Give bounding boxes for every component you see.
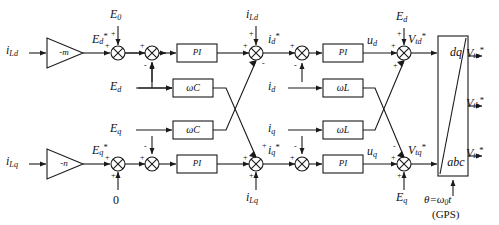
wire-wc-d-cross-down	[213, 88, 256, 157]
sign-sum-iLd-cross: -	[262, 60, 265, 68]
block-label-wl-q: ωL	[323, 125, 363, 135]
transform-label-abc: abc	[444, 156, 468, 168]
gain-block-label-m: -m	[52, 48, 76, 57]
theta-angle-label: θ=ω0t	[424, 194, 451, 206]
sign-sum-vtq-ff: +	[397, 172, 402, 180]
sign-sum-vtd-ff: +	[397, 30, 402, 38]
signal-label-Vtd-ref: Vtd*	[408, 32, 426, 47]
input-label-id-feedback: id	[268, 80, 275, 94]
input-label-Eq: Eq	[110, 122, 121, 136]
wire-wc-q-cross-up	[213, 61, 256, 130]
gps-source-label: (GPS)	[432, 209, 460, 220]
block-label-pi-d-outer: PI	[177, 48, 217, 57]
block-diagram-figure: iLd iLq E0 0 Ed Eq iLd iLq id iq Ed Eq -…	[0, 0, 499, 225]
output-label-Vta: Vta*	[466, 46, 484, 61]
block-label-wc-q: ωC	[173, 125, 213, 135]
input-label-iLq: iLq	[6, 155, 18, 169]
sign-sum-vtq-cross: -	[393, 143, 396, 151]
diagram-geometry	[29, 26, 482, 196]
input-label-iLq-injection: iLq	[246, 191, 258, 205]
signal-label-Vtq-ref: Vtq*	[408, 143, 426, 158]
sign-sum-iLd-pi: +	[243, 42, 248, 50]
gain-block-label-n: -n	[52, 159, 76, 168]
input-label-Eq-feedforward: Eq	[396, 191, 407, 205]
sign-sum-eq-err-ref: +	[140, 154, 145, 162]
sign-sum-iLq-pi: +	[243, 154, 248, 162]
sign-sum-vtq-uq: +	[391, 154, 396, 162]
sign-sum-iq-err-ref: +	[290, 154, 295, 162]
sign-sum-ed-in2: +	[111, 30, 116, 38]
input-label-E0: E0	[110, 8, 121, 22]
block-label-pi-q-outer: PI	[177, 159, 217, 168]
input-label-Ed: Ed	[110, 80, 121, 94]
sign-sum-iLq-inj: +	[249, 172, 254, 180]
sign-sum-id-err-fb: -	[294, 62, 297, 70]
output-label-Vtb: Vtb*	[466, 96, 484, 111]
sign-sum-iLd-inj: +	[249, 30, 254, 38]
signal-label-id-ref: id*	[268, 32, 280, 47]
sign-sum-vtd-cross: +	[393, 62, 398, 70]
signal-label-ud: ud	[367, 34, 377, 48]
input-label-iLd-injection: iLd	[246, 8, 258, 22]
sign-sum-ed-in1: +	[105, 42, 110, 50]
input-label-iq-feedback: iq	[268, 122, 275, 136]
block-label-pi-q-inner: PI	[323, 159, 363, 168]
wire-wl-q-cross-up	[363, 61, 404, 130]
sign-sum-ed-err-fb: -	[144, 62, 147, 70]
signal-label-iq-ref: iq*	[268, 143, 280, 158]
sign-sum-iq-err-fb: -	[294, 143, 297, 151]
sign-sum-eq-in2: +	[111, 172, 116, 180]
signal-label-uq: uq	[367, 145, 377, 159]
sign-sum-iLq-cross: +	[262, 142, 267, 150]
block-label-wc-d: ωC	[173, 83, 213, 93]
sign-sum-eq-in1: +	[105, 154, 110, 162]
block-label-pi-d-inner: PI	[323, 48, 363, 57]
input-label-zero: 0	[113, 194, 119, 206]
sign-sum-id-err-ref: +	[290, 42, 295, 50]
transform-label-dq: dq	[444, 46, 468, 58]
sign-sum-vtd-ud: +	[391, 42, 396, 50]
sign-sum-eq-err-fb: -	[144, 143, 147, 151]
input-label-Ed-feedforward: Ed	[396, 10, 407, 24]
input-label-iLd: iLd	[6, 44, 18, 58]
sign-sum-ed-err-ref: +	[140, 42, 145, 50]
output-label-Vtc: Vtc*	[466, 146, 484, 161]
block-label-wl-d: ωL	[323, 83, 363, 93]
